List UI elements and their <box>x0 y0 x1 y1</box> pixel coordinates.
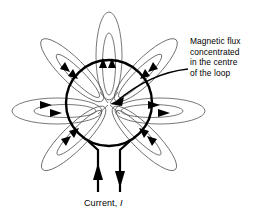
current-leads <box>88 141 130 192</box>
arrowhead-left-inner <box>40 101 52 109</box>
current-arrow-down <box>115 171 125 188</box>
field-line-lobes <box>12 12 205 178</box>
current-label-prefix: Current, <box>84 198 120 208</box>
lead-wire-right <box>120 141 130 192</box>
arrowhead-bottom-right-inner <box>147 136 157 146</box>
magnetic-flux-diagram <box>0 0 265 218</box>
arrowhead-left-outer <box>50 109 62 117</box>
lead-wire-left <box>88 141 98 192</box>
arrowhead-right-outer <box>158 109 170 117</box>
current-loop-circle <box>66 60 152 146</box>
arrowhead-top-left-inner <box>60 62 70 72</box>
current-symbol: I <box>120 198 123 208</box>
annotation-line-2: concentrated <box>190 47 265 58</box>
field-direction-arrowheads <box>40 58 170 146</box>
annotation-line-4: of the loop <box>190 68 265 79</box>
arrowhead-top-right-inner <box>148 62 158 72</box>
flux-annotation-label: Magnetic flux concentrated in the centre… <box>190 36 265 78</box>
annotation-line-1: Magnetic flux <box>190 36 265 47</box>
arrowhead-right-inner <box>148 101 160 109</box>
arrowhead-bottom-left-inner <box>61 136 71 146</box>
current-label: Current, I <box>84 198 123 208</box>
current-arrow-up <box>93 163 103 180</box>
annotation-line-3: in the centre <box>190 57 265 68</box>
figure-canvas: Magnetic flux concentrated in the centre… <box>0 0 265 218</box>
